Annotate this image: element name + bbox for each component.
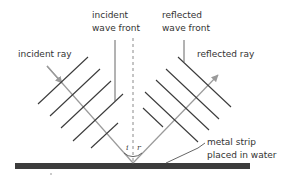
reflected-wave-fronts [143,57,231,142]
angle-r-label: r [137,143,142,152]
metal-strip [15,163,250,169]
reflected-ray-label: reflected ray [197,49,255,59]
incident-ray [47,66,133,163]
speck [50,173,52,175]
reflected-ray [133,75,218,163]
angle-i-label: i [126,143,129,152]
reflected-wave-front-label-2: wave front [162,23,210,33]
incident-ray-label: incident ray [18,49,72,59]
reflection-diagram: incident ray incident wave front reflect… [0,0,284,176]
incident-wave-front-label-2: wave front [92,23,140,33]
metal-strip-label: metal strip [207,137,256,147]
metal-strip-pointer [166,143,205,163]
reflected-wave-front-label: reflected [162,10,202,20]
incident-wave-front-label: incident [92,10,129,20]
metal-strip-label-2: placed in water [207,150,277,160]
